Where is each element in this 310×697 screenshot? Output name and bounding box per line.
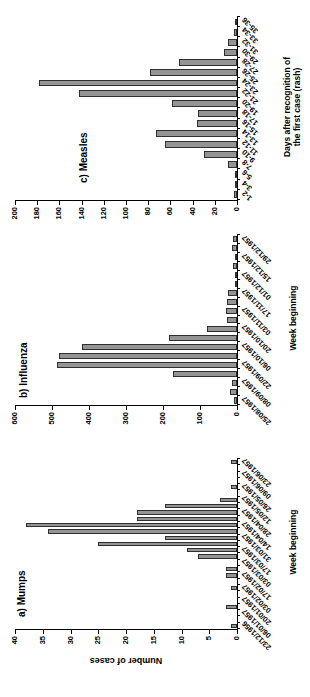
x-tick-mark	[237, 77, 240, 78]
y-tick-mark	[15, 201, 16, 205]
x-tick-mark	[237, 179, 240, 180]
bar	[156, 130, 237, 137]
bars-container	[15, 17, 237, 200]
bar	[165, 141, 237, 148]
bar-slot	[15, 17, 237, 27]
bar-slot	[15, 190, 237, 200]
x-tick-mark	[237, 47, 240, 48]
x-tick-mark	[237, 189, 240, 190]
x-axis-title-measles-line2: the first case (rash)	[292, 57, 302, 157]
bar-slot	[15, 27, 237, 37]
bar	[198, 110, 237, 117]
bar	[234, 191, 237, 198]
figure-landscape: Number of cases a) Mumps 051015202530354…	[0, 0, 310, 697]
y-tick-mark	[104, 201, 105, 205]
x-tick-mark	[237, 128, 240, 129]
y-tick-mark	[237, 201, 238, 205]
x-axis-title-measles-line1: Days after recognition of	[282, 57, 292, 157]
bar-slot	[15, 58, 237, 68]
x-tick-mark	[237, 199, 240, 200]
y-tick-mark	[59, 201, 60, 205]
screenshot-root: { "figure": { "y_axis_title": "Number of…	[0, 0, 310, 697]
y-tick-mark	[170, 201, 171, 205]
y-tick-label: 120	[100, 207, 108, 220]
bar-slot	[15, 47, 237, 57]
bar-slot	[15, 159, 237, 169]
bar-slot	[15, 129, 237, 139]
y-tick-label: 80	[144, 207, 152, 215]
bar	[235, 181, 237, 188]
bar	[172, 100, 237, 107]
y-tick-mark	[126, 201, 127, 205]
bar	[228, 161, 237, 168]
bar	[228, 39, 237, 46]
bar-slot	[15, 149, 237, 159]
x-tick-mark	[237, 118, 240, 119]
x-tick-mark	[237, 138, 240, 139]
bar	[224, 49, 237, 56]
bar	[234, 29, 237, 36]
bar-slot	[15, 37, 237, 47]
chart-measles: c) Measles 0204060801001201401601802001-…	[0, 0, 310, 697]
y-tick-label: 20	[211, 207, 219, 215]
bar	[179, 59, 237, 66]
bar-slot	[15, 98, 237, 108]
x-tick-mark	[237, 158, 240, 159]
bar-slot	[15, 119, 237, 129]
y-tick-mark	[148, 201, 149, 205]
y-tick-label: 40	[189, 207, 197, 215]
bar-slot	[15, 180, 237, 190]
y-tick-label: 60	[166, 207, 174, 215]
bar-slot	[15, 68, 237, 78]
y-tick-label: 140	[78, 207, 86, 220]
x-tick-mark	[237, 26, 240, 27]
bar	[235, 171, 237, 178]
x-tick-mark	[237, 169, 240, 170]
y-tick-label: 180	[33, 207, 41, 220]
x-tick-mark	[237, 87, 240, 88]
bar	[79, 90, 237, 97]
y-tick-label: 0	[233, 207, 241, 211]
bar-slot	[15, 78, 237, 88]
x-tick-mark	[237, 97, 240, 98]
bar	[197, 120, 237, 127]
bar-slot	[15, 169, 237, 179]
x-axis-title-measles: Days after recognition of the first case…	[282, 57, 302, 157]
y-tick-mark	[82, 201, 83, 205]
y-tick-label: 100	[122, 207, 130, 220]
y-tick-label: 160	[55, 207, 63, 220]
bar-slot	[15, 108, 237, 118]
bar	[204, 151, 237, 158]
y-tick-label: 200	[11, 207, 19, 220]
y-tick-mark	[37, 201, 38, 205]
x-tick-mark	[237, 57, 240, 58]
y-tick-mark	[215, 201, 216, 205]
x-tick-mark	[237, 148, 240, 149]
x-tick-mark	[237, 67, 240, 68]
bar-slot	[15, 88, 237, 98]
x-tick-mark	[237, 108, 240, 109]
x-tick-mark	[237, 16, 240, 17]
x-tick-mark	[237, 36, 240, 37]
bar	[150, 69, 237, 76]
bar	[39, 80, 237, 87]
plot-area-measles: 0204060801001201401601802001-23-45-67-89…	[15, 17, 238, 201]
bar-slot	[15, 139, 237, 149]
bar	[235, 19, 237, 26]
y-tick-mark	[193, 201, 194, 205]
